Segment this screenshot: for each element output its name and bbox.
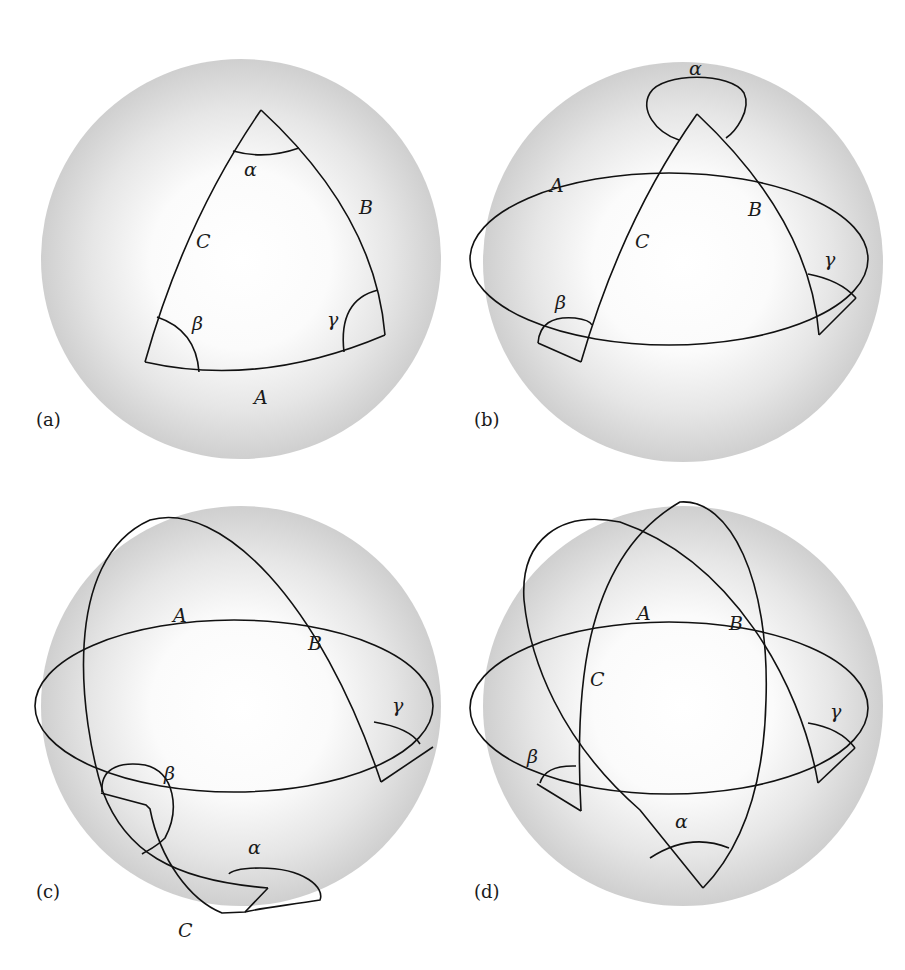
panel-label-c: (c) <box>36 881 60 902</box>
side-b-label: B <box>358 196 373 218</box>
side-c-label: C <box>590 668 605 690</box>
gamma-label: γ <box>392 694 404 716</box>
side-a-label: A <box>171 604 187 626</box>
sphere <box>41 506 441 906</box>
panel-label-b: (b) <box>474 409 500 430</box>
spherical-triangles-figure: α β γ B C A (a) α β γ A B C (b) <box>0 0 905 970</box>
panel-a: α β γ B C A (a) <box>36 59 441 459</box>
panel-b: α β γ A B C (b) <box>470 57 883 462</box>
panel-label-d: (d) <box>474 881 500 902</box>
side-c-label: C <box>635 230 650 252</box>
side-a-label: A <box>635 602 651 624</box>
gamma-label: γ <box>824 248 836 270</box>
side-a-label: A <box>252 386 268 408</box>
panel-label-a: (a) <box>36 409 61 430</box>
side-a-label: A <box>548 174 564 196</box>
beta-label: β <box>526 745 538 767</box>
sphere <box>41 59 441 459</box>
beta-label: β <box>163 762 175 784</box>
beta-label: β <box>191 312 203 334</box>
side-c-label: C <box>178 919 193 941</box>
side-b-label: B <box>307 632 322 654</box>
alpha-label: α <box>675 810 688 832</box>
side-b-label: B <box>728 612 743 634</box>
side-c-label: C <box>196 230 211 252</box>
panel-c: β α γ A B C (c) <box>35 506 441 941</box>
side-b-label: B <box>747 198 762 220</box>
alpha-label: α <box>248 836 261 858</box>
alpha-label: α <box>689 57 702 79</box>
alpha-label: α <box>244 158 257 180</box>
sphere <box>483 62 883 462</box>
beta-label: β <box>554 291 566 313</box>
gamma-label: γ <box>327 308 339 330</box>
sphere <box>483 506 883 906</box>
panel-d: β α γ A B C (d) <box>470 502 883 906</box>
gamma-label: γ <box>830 700 842 722</box>
